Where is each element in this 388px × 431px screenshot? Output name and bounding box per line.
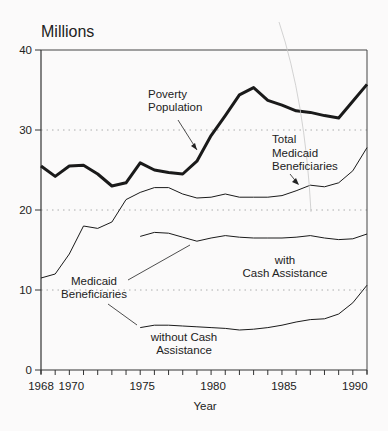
gridlines [41, 130, 367, 290]
without-cash-label-line1: without Cash [150, 331, 217, 343]
series-line-2 [140, 232, 367, 241]
y-tick-label: 40 [19, 44, 32, 56]
x-tick-label: 1990 [342, 380, 368, 392]
poverty-label-line1: Poverty [148, 88, 187, 100]
medicaid-label-line1: Medicaid [71, 275, 117, 287]
chart-container: Millions 0102030401968197019751980198519… [0, 0, 388, 431]
without-cash-label-line2: Assistance [156, 344, 212, 356]
y-tick-label: 10 [19, 284, 32, 296]
medicaid-label-line2: Beneficiaries [61, 288, 127, 300]
series-line-3 [140, 285, 367, 330]
y-tick-label: 0 [26, 364, 32, 376]
medicaid-without-pointer [108, 304, 137, 325]
x-tick-label: 1985 [271, 380, 297, 392]
chart-title: Millions [41, 23, 94, 40]
y-tick-label: 20 [19, 204, 32, 216]
annotations: Poverty Population Total Medicaid Benefi… [61, 88, 338, 356]
total-label-line3: Beneficiaries [272, 160, 338, 172]
with-cash-label-line2: Cash Assistance [242, 267, 327, 279]
poverty-arrowhead-icon [191, 143, 197, 150]
total-label-line2: Medicaid [272, 147, 318, 159]
total-label-line1: Total [272, 133, 296, 145]
x-axis-label: Year [193, 400, 216, 412]
x-tick-label: 1975 [129, 380, 155, 392]
medicaid-with-pointer [128, 245, 190, 280]
x-tick-label: 1980 [200, 380, 226, 392]
x-tick-label: 1970 [59, 380, 85, 392]
total-arrowhead-icon [292, 178, 299, 185]
poverty-label-line2: Population [148, 101, 202, 113]
with-cash-label-line1: with [274, 254, 295, 266]
y-tick-label: 30 [19, 124, 32, 136]
x-tick-label: 1968 [28, 380, 54, 392]
